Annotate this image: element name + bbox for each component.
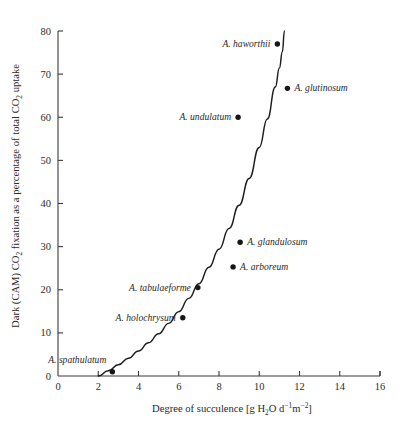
x-axis-ticks: 0246810121416	[55, 371, 385, 392]
data-point-label: A. spathulatum	[47, 354, 106, 365]
x-tick-label: 16	[375, 381, 386, 392]
data-point[interactable]	[237, 240, 242, 245]
data-point[interactable]	[235, 115, 240, 120]
y-axis-title: Dark (CAM) CO2 fixation as a percentage …	[10, 64, 24, 328]
x-tick-label: 4	[136, 381, 142, 392]
y-tick-label: 10	[41, 327, 52, 338]
y-tick-label: 60	[41, 112, 52, 123]
x-tick-label: 2	[96, 381, 101, 392]
data-point[interactable]	[110, 369, 115, 374]
data-points-group: A. spathulatumA. holochrysumA. tabulaefo…	[47, 38, 348, 374]
x-tick-label: 6	[176, 381, 181, 392]
x-tick-label: 8	[216, 381, 221, 392]
y-tick-label: 40	[41, 198, 52, 209]
data-point[interactable]	[275, 41, 280, 46]
y-tick-label: 0	[46, 371, 51, 382]
x-axis-title: Degree of succulence [g H2O d−1m−2]	[152, 401, 312, 417]
data-point-label: A. glutinosum	[293, 82, 347, 93]
y-axis-ticks: 01020304050607080	[41, 26, 64, 382]
data-point[interactable]	[180, 315, 185, 320]
data-point-label: A. undulatum	[178, 111, 231, 122]
x-tick-label: 10	[254, 381, 265, 392]
chart-plot-area: 0246810121416 01020304050607080 A. spath…	[0, 0, 411, 427]
y-tick-label: 20	[41, 284, 52, 295]
data-point-label: A. glandulosum	[246, 236, 307, 247]
x-tick-label: 12	[294, 381, 305, 392]
data-point-label: A. tabulaeforme	[128, 282, 192, 293]
y-tick-label: 70	[41, 69, 52, 80]
chart-container: 0246810121416 01020304050607080 A. spath…	[0, 0, 411, 427]
data-point-label: A. arboreum	[239, 261, 288, 272]
y-tick-label: 30	[41, 241, 52, 252]
data-point[interactable]	[230, 264, 235, 269]
data-point-label: A. haworthii	[221, 38, 270, 49]
fitted-curve	[98, 31, 284, 376]
y-tick-label: 80	[41, 26, 52, 37]
x-tick-label: 0	[55, 381, 60, 392]
data-point[interactable]	[195, 285, 200, 290]
y-tick-label: 50	[41, 155, 52, 166]
x-tick-label: 14	[335, 381, 346, 392]
data-point-label: A. holochrysum	[115, 312, 176, 323]
data-point[interactable]	[285, 86, 290, 91]
